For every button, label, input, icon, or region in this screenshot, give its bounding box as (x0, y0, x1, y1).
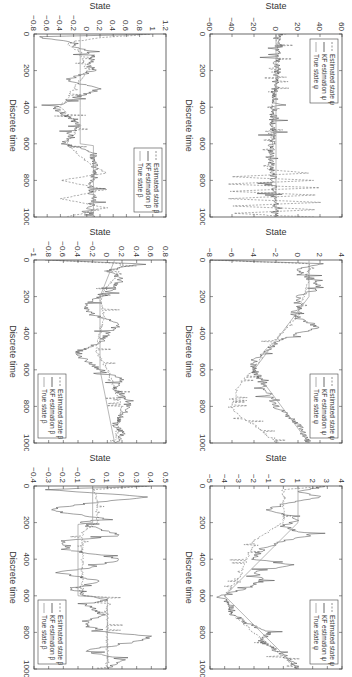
x-tick-label: 600 (198, 363, 207, 377)
figure-grid: 02004006008001000−60−40−200204060Discret… (0, 0, 352, 677)
legend-entry: True state ψ (312, 615, 320, 651)
x-tick-label: 400 (22, 327, 31, 341)
legend: Estimated state ψKF estimation ψTrue sta… (310, 39, 338, 106)
y-tick-label: 20 (293, 22, 302, 31)
chart-psi-2: 02004006008001000−8−6−4−2024Discrete tim… (176, 226, 352, 451)
y-tick-label: 0.2 (117, 472, 126, 484)
legend-entry: Estimated state β (56, 615, 64, 666)
y-tick-label: −0.4 (55, 15, 64, 31)
y-tick-label: −2 (249, 474, 258, 484)
x-tick-label: 1000 (22, 208, 31, 225)
y-tick-label: 0 (293, 253, 302, 258)
y-tick-label: 0 (82, 27, 91, 32)
chart-beta-1: 02004006008001000−0.8−0.6−0.4−0.200.20.4… (0, 0, 176, 225)
y-tick-label: −8 (205, 248, 214, 258)
x-tick-label: 400 (198, 553, 207, 567)
y-tick-label: −0.4 (73, 241, 82, 257)
legend: Estimated state βKF estimation βTrue sta… (38, 600, 66, 666)
legend-entry: True state ψ (312, 54, 320, 90)
x-tick-label: 400 (22, 553, 31, 567)
legend-entry: Estimated state ψ (328, 615, 336, 667)
y-tick-label: −5 (205, 474, 214, 484)
legend-entry: KF estimation ψ (320, 389, 328, 436)
x-tick-label: 1000 (198, 434, 207, 451)
y-tick-label: −6 (227, 248, 236, 258)
x-axis-label: Discrete time (184, 99, 194, 152)
y-axis-label: State (265, 1, 286, 11)
x-axis-label: Discrete time (184, 325, 194, 378)
y-tick-label: −0.1 (73, 467, 82, 483)
y-tick-label: 0.1 (102, 472, 111, 484)
y-tick-label: 0.4 (108, 20, 117, 32)
x-tick-label: 0 (22, 32, 31, 37)
legend-entry: KF estimation ψ (320, 615, 328, 662)
x-axis-label: Discrete time (8, 325, 18, 378)
y-tick-label: −0.6 (58, 241, 67, 257)
x-tick-label: 800 (22, 400, 31, 414)
legend: Estimated state ψKF estimation ψTrue sta… (310, 374, 338, 441)
y-tick-label: 0.8 (135, 20, 144, 32)
chart-psi-1: 02004006008001000−60−40−200204060Discret… (176, 0, 352, 225)
y-tick-label: 2 (315, 253, 324, 258)
y-tick-label: 0.6 (146, 246, 155, 258)
y-tick-label: 2 (308, 479, 317, 484)
x-tick-label: 0 (22, 484, 31, 489)
y-tick-label: 0.5 (161, 472, 170, 484)
x-tick-label: 0 (198, 32, 207, 37)
y-tick-label: 0 (271, 27, 280, 32)
y-tick-label: 0.8 (161, 246, 170, 258)
y-tick-label: −20 (249, 17, 258, 31)
y-axis-label: State (89, 1, 110, 11)
y-axis-label: State (265, 453, 286, 463)
legend-entry: Estimated state ψ (328, 54, 336, 106)
y-tick-label: 1.2 (161, 20, 170, 32)
y-tick-label: −0.6 (42, 15, 51, 31)
y-tick-label: −0.2 (58, 467, 67, 483)
y-tick-label: −40 (227, 17, 236, 31)
x-tick-label: 200 (22, 290, 31, 304)
legend: Estimated state ψKF estimation ψTrue sta… (310, 600, 338, 667)
x-axis-label: Discrete time (8, 99, 18, 152)
legend-entry: True state β (40, 615, 48, 650)
legend-entry: KF estimation β (48, 389, 56, 435)
legend-entry: True state β (40, 389, 48, 424)
x-tick-label: 200 (22, 516, 31, 530)
y-axis-label: State (89, 453, 110, 463)
x-tick-label: 1000 (198, 208, 207, 225)
y-tick-label: −3 (234, 474, 243, 484)
y-tick-label: 0 (278, 479, 287, 484)
x-tick-label: 600 (198, 137, 207, 151)
y-tick-label: 4 (337, 253, 346, 258)
legend-entry: Estimated state β (152, 163, 160, 214)
y-tick-label: −4 (220, 474, 229, 484)
x-tick-label: 1000 (22, 434, 31, 451)
y-tick-label: −1 (29, 248, 38, 258)
x-axis-label: Discrete time (8, 551, 18, 604)
y-tick-label: 40 (315, 22, 324, 31)
legend-entry: True state ψ (312, 389, 320, 425)
legend-entry: KF estimation β (144, 163, 152, 209)
y-tick-label: −0.8 (44, 241, 53, 257)
legend-entry: Estimated state β (56, 389, 64, 440)
y-tick-label: −0.3 (44, 467, 53, 483)
legend-entry: KF estimation β (48, 615, 56, 661)
y-tick-label: 60 (337, 22, 346, 31)
legend-entry: KF estimation ψ (320, 54, 328, 101)
legend: Estimated state βKF estimation βTrue sta… (38, 374, 66, 440)
x-tick-label: 600 (22, 137, 31, 151)
x-tick-label: 400 (22, 101, 31, 115)
y-tick-label: 0 (102, 253, 111, 258)
y-tick-label: 0.4 (146, 472, 155, 484)
x-tick-label: 800 (22, 626, 31, 640)
y-tick-label: 0.6 (121, 20, 130, 32)
y-axis-label: State (265, 227, 286, 237)
y-tick-label: −60 (205, 17, 214, 31)
y-tick-label: −0.2 (88, 241, 97, 257)
x-tick-label: 0 (198, 484, 207, 489)
y-tick-label: 0.3 (132, 472, 141, 484)
y-tick-label: −0.2 (69, 15, 78, 31)
y-tick-label: 0.2 (95, 20, 104, 32)
y-tick-label: 1 (293, 479, 302, 484)
x-tick-label: 200 (198, 290, 207, 304)
y-tick-label: 0.2 (117, 246, 126, 258)
